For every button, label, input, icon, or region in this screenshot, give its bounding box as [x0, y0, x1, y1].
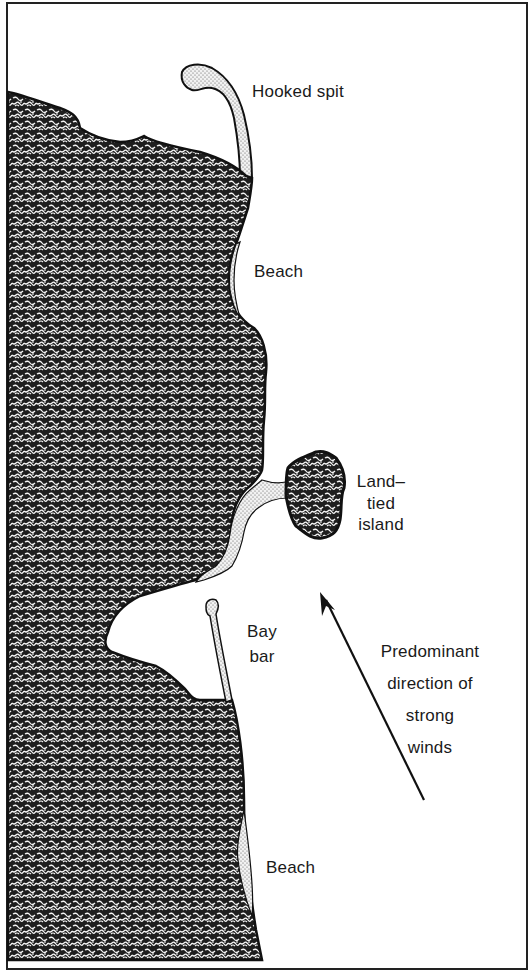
label-beach-upper: Beach — [254, 260, 303, 284]
coastal-landforms-diagram: Hooked spit Beach Land– tied island Bay … — [0, 0, 529, 973]
label-bay-bar-line2: bar — [244, 645, 280, 669]
label-bay-bar-line1: Bay — [244, 620, 280, 644]
bay-bar-shape — [206, 599, 232, 702]
diagram-canvas — [0, 0, 529, 973]
land-tied-island-shape — [286, 451, 345, 538]
label-land-tied-island-line1: Land– — [354, 470, 408, 494]
label-wind-line1: Predominant — [370, 640, 490, 664]
label-beach-lower: Beach — [266, 856, 315, 880]
label-land-tied-island-line3: island — [354, 513, 408, 537]
label-hooked-spit: Hooked spit — [252, 80, 344, 104]
label-wind-line3: strong — [370, 704, 490, 728]
label-wind-line4: winds — [370, 736, 490, 760]
label-wind-line2: direction of — [370, 672, 490, 696]
land-mass-upper — [8, 92, 266, 960]
wind-direction-arrow-icon — [320, 592, 424, 800]
